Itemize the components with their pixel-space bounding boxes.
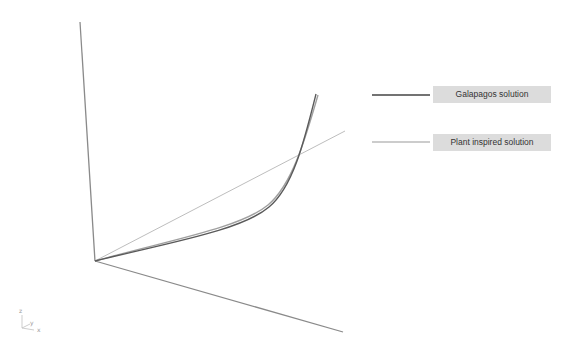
plant-inspired-curve [95, 95, 318, 261]
gizmo-y-label: y [30, 319, 34, 326]
reference-line [95, 131, 345, 261]
legend-label-galapagos: Galapagos solution [433, 86, 551, 103]
gizmo-z-label: z [19, 307, 22, 314]
lower-axis [95, 261, 343, 332]
galapagos-curve [95, 94, 316, 261]
legend-label-plant: Plant inspired solution [433, 134, 551, 151]
diagram-canvas [0, 0, 577, 353]
gizmo-x-label: x [37, 326, 41, 333]
vertical-axis [80, 22, 95, 261]
